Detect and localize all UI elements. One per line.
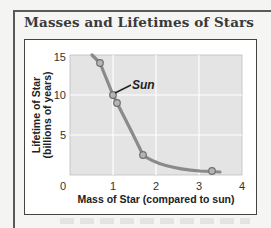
y-axis-label-line2: (billions of years) bbox=[41, 72, 53, 159]
caption-faded bbox=[60, 218, 250, 224]
y-tick-5: 5 bbox=[60, 129, 66, 141]
y-tick-15: 15 bbox=[54, 51, 66, 63]
x-tick-0: 0 bbox=[60, 180, 66, 192]
x-tick-1: 1 bbox=[110, 180, 116, 192]
data-point bbox=[209, 168, 216, 175]
x-axis-label: Mass of Star (compared to sun) bbox=[78, 193, 235, 205]
x-tick-2: 2 bbox=[153, 180, 159, 192]
line-chart: 15 10 5 0 1 2 3 4 Mass of Star (compared… bbox=[0, 0, 271, 228]
data-point bbox=[97, 60, 104, 67]
y-tick-10: 10 bbox=[54, 89, 66, 101]
data-point bbox=[114, 100, 121, 107]
x-tick-3: 3 bbox=[196, 180, 202, 192]
data-point bbox=[140, 152, 147, 159]
sun-annotation: Sun bbox=[132, 78, 155, 92]
x-tick-4: 4 bbox=[239, 180, 245, 192]
